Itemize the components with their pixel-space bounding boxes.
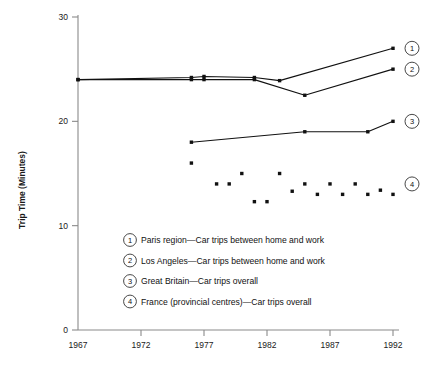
legend-number-2: 2 [128,256,132,265]
x-tick-label: 1977 [195,340,214,350]
data-point-marker [76,78,79,81]
y-tick-label: 10 [59,221,69,231]
x-tick-label: 1987 [321,340,340,350]
callout-number-2: 2 [410,65,414,74]
data-point-marker [303,182,306,185]
legend-number-4: 4 [128,297,132,306]
data-point-marker [391,193,394,196]
line-chart-plot: 0102030 196719721977198219871992 1234 1P… [0,0,434,365]
data-point-marker [265,200,268,203]
data-series-group [76,47,394,204]
data-point-marker [341,193,344,196]
x-tick-label: 1967 [69,340,88,350]
data-point-marker [366,130,369,133]
data-point-marker [202,75,205,78]
data-point-marker [366,193,369,196]
data-point-marker [278,172,281,175]
data-point-marker [303,94,306,97]
data-point-marker [391,67,394,70]
series-4 [190,161,395,203]
chart-legend: 1Paris region—Car trips between home and… [124,234,326,308]
data-point-marker [190,161,193,164]
legend-label-3: Great Britain—Car trips overall [141,276,258,286]
data-point-marker [228,182,231,185]
legend-number-1: 1 [128,236,132,245]
x-tick-label: 1972 [132,340,151,350]
legend-label-1: Paris region—Car trips between home and … [141,235,325,245]
series-line-1 [78,48,393,80]
callout-1: 1 [405,41,419,55]
legend-label-4: France (provincial centres)—Car trips ov… [141,297,312,307]
legend-item-1: 1Paris region—Car trips between home and… [124,234,325,247]
callout-2: 2 [405,62,419,76]
legend-item-3: 3Great Britain—Car trips overall [124,275,258,288]
series-line-3 [191,121,393,142]
data-point-marker [379,188,382,191]
series-line-2 [78,69,393,95]
data-point-marker [215,182,218,185]
x-tick-label: 1992 [384,340,403,350]
data-point-marker [202,78,205,81]
legend-item-4: 4France (provincial centres)—Car trips o… [124,295,312,308]
callout-number-1: 1 [410,44,414,53]
callout-4: 4 [405,177,419,191]
data-point-marker [278,79,281,82]
data-point-marker [303,130,306,133]
data-point-marker [253,200,256,203]
data-point-marker [328,182,331,185]
data-point-marker [354,182,357,185]
legend-item-2: 2Los Angeles—Car trips between home and … [124,254,326,267]
y-tick-label: 0 [63,325,68,335]
y-axis-title: Trip Time (Minutes) [17,151,27,229]
y-tick-label: 30 [59,12,69,22]
y-tick-label: 20 [59,116,69,126]
series-callout-group: 1234 [405,41,419,191]
legend-label-2: Los Angeles—Car trips between home and w… [141,256,326,266]
x-tick-label: 1982 [258,340,277,350]
data-point-marker [391,120,394,123]
data-point-marker [240,172,243,175]
data-point-marker [190,78,193,81]
callout-3: 3 [405,114,419,128]
series-3 [190,120,395,144]
data-point-marker [291,190,294,193]
data-point-marker [253,78,256,81]
legend-number-3: 3 [128,277,132,286]
y-axis-ticks: 0102030 [59,12,78,335]
callout-number-3: 3 [410,117,414,126]
data-point-marker [391,47,394,50]
data-point-marker [316,193,319,196]
x-axis-ticks: 196719721977198219871992 [69,330,403,350]
series-1 [76,47,394,83]
series-2 [76,67,394,96]
data-point-marker [190,141,193,144]
chart-container: 0102030 196719721977198219871992 1234 1P… [0,0,434,365]
callout-number-4: 4 [410,180,414,189]
y-axis-title-text: Trip Time (Minutes) [17,151,27,229]
